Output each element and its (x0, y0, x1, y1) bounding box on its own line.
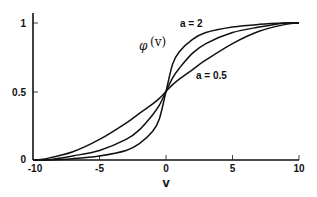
sigmoid-chart: 1 0.5 0 -10 -5 0 5 10 v φ (v) a = 2 a = … (0, 0, 317, 197)
x-tick-label--10: -10 (28, 163, 43, 174)
y-tick-label-1: 1 (20, 18, 26, 29)
annotation-a-0.5: a = 0.5 (196, 70, 227, 81)
phi-argument: (v) (150, 35, 166, 49)
x-tick-label--5: -5 (95, 163, 104, 174)
x-tick-label-5: 5 (230, 163, 236, 174)
x-axis-title: v (162, 175, 170, 190)
phi-symbol: φ (139, 39, 148, 53)
annotation-a-2: a = 2 (180, 18, 203, 29)
y-tick-label-0: 0 (20, 154, 26, 165)
y-tick-label-0.5: 0.5 (12, 87, 26, 98)
x-tick-label-0: 0 (163, 163, 169, 174)
x-tick-label-10: 10 (293, 163, 305, 174)
